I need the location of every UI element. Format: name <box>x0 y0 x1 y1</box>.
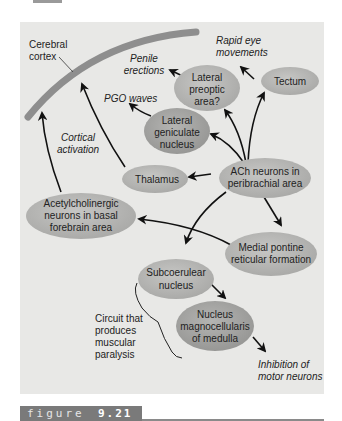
arrow-medial-to-basal <box>139 219 231 245</box>
arrow-ach-to-thalamus <box>189 174 211 177</box>
arrow-ach-to-tectum <box>248 93 264 163</box>
svg-text:Tectum: Tectum <box>274 76 306 87</box>
node-lateral-geniculate: Lateralgeniculatenucleus <box>144 108 210 154</box>
arrow-ach-to-subcoerulear <box>186 192 226 243</box>
node-magnocellularis: Nucleusmagnocellularisof medulla <box>176 301 254 351</box>
arrow-to-rem <box>241 67 254 79</box>
figure-caption-word: figure <box>27 406 85 421</box>
svg-text:Thalamus: Thalamus <box>135 174 179 185</box>
node-subcoerulear: Subcoerulearnucleus <box>138 259 214 299</box>
svg-text:Acetylcholinergicneurons in ba: Acetylcholinergicneurons in basalforebra… <box>43 198 118 233</box>
arrow-subcoerulear-to-magno <box>211 284 225 298</box>
svg-text:ACh neurons inperibrachial are: ACh neurons inperibrachial area <box>228 166 303 189</box>
arrow-to-pgo <box>130 104 151 116</box>
figure-caption-number: 9.21 <box>98 406 133 421</box>
arrow-ach-to-preoptic <box>225 110 246 163</box>
node-medial-pontine: Medial pontinereticular formation <box>225 232 317 276</box>
node-ach-peribrachial: ACh neurons inperibrachial area <box>219 158 311 198</box>
node-tectum: Tectum <box>261 67 319 95</box>
node-acetylcholinergic-basal: Acetylcholinergicneurons in basalforebra… <box>26 193 136 239</box>
node-thalamus: Thalamus <box>122 165 188 193</box>
arrow-ach-to-medial <box>264 197 281 225</box>
label-circuit-paralysis: Circuit thatproducesmuscularparalysis <box>95 313 143 360</box>
arrow-magno-to-inhibition <box>253 337 265 351</box>
label-rapid-eye-movements: Rapid eyemovements <box>216 35 268 58</box>
label-pgo-waves: PGO waves <box>104 93 157 104</box>
label-penile-erections: Penileerections <box>124 53 165 76</box>
svg-text:Medial pontinereticular format: Medial pontinereticular formation <box>231 242 311 265</box>
cortex-leader-line <box>59 57 73 72</box>
label-cortical-activation: Corticalactivation <box>57 132 100 155</box>
sleep-circuit-diagram: Lateralpreopticarea? Tectum Lateralgenic… <box>0 0 342 421</box>
label-cerebral-cortex: Cerebralcortex <box>29 39 67 62</box>
label-inhibition-motor: Inhibition ofmotor neurons <box>258 359 322 382</box>
node-lateral-preoptic: Lateralpreopticarea? <box>174 65 240 111</box>
svg-text:Lateralpreopticarea?: Lateralpreopticarea? <box>189 72 225 107</box>
